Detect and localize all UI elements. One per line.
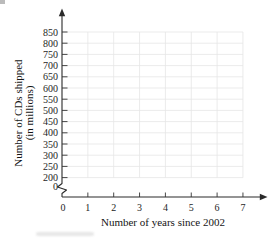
y-tick-label: 850	[43, 27, 58, 38]
y-tick-label: 650	[43, 71, 58, 82]
chart-figure: 2002503003504004505005506006507007508008…	[0, 0, 279, 242]
tick-marks	[62, 32, 243, 197]
axes	[58, 9, 268, 201]
y-tick-label: 250	[43, 161, 58, 172]
y-axis-arrow	[59, 9, 65, 17]
x-tick-label: 1	[85, 202, 90, 213]
x-tick-label: 5	[189, 202, 194, 213]
x-tick-label: 7	[240, 202, 245, 213]
y-tick-label: 800	[43, 38, 58, 49]
x-tick-label: 2	[111, 202, 116, 213]
y-tick-label: 700	[43, 60, 58, 71]
y-tick-label: 500	[43, 105, 58, 116]
y-tick-label: 400	[43, 127, 58, 138]
x-axis-title: Number of years since 2002	[101, 216, 225, 228]
y-tick-label: 750	[43, 49, 58, 60]
x-tick-label: 6	[215, 202, 220, 213]
y-tick-label: 600	[43, 83, 58, 94]
y-axis-title-line2: (in millions)	[23, 85, 36, 140]
empty-coordinate-grid-chart: 2002503003504004505005506006507007508008…	[0, 0, 279, 242]
x-axis-arrow	[260, 194, 268, 200]
y-tick-label: 350	[43, 139, 58, 150]
y-axis-origin-label: 0	[53, 181, 58, 192]
x-tick-label: 3	[137, 202, 142, 213]
y-tick-label: 300	[43, 150, 58, 161]
y-tick-label: 550	[43, 94, 58, 105]
y-axis-line-with-break	[58, 14, 67, 197]
gridlines	[62, 32, 243, 178]
x-tick-label: 4	[163, 202, 168, 213]
x-tick-label: 0	[61, 202, 66, 213]
y-tick-label: 450	[43, 116, 58, 127]
